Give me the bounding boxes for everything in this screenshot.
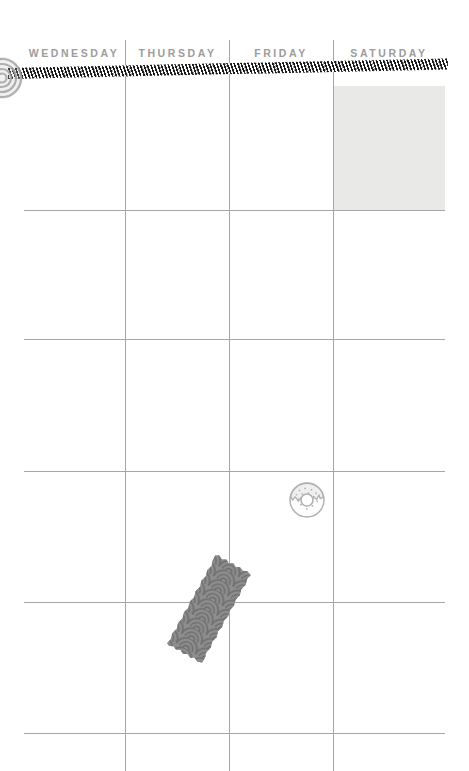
day-header-row: WEDNESDAY THURSDAY FRIDAY SATURDAY — [0, 0, 469, 66]
donut-sticker-icon — [286, 479, 328, 521]
day-header-thursday: THURSDAY — [126, 45, 229, 61]
day-header-wednesday: WEDNESDAY — [22, 45, 126, 61]
weekly-planner-page: WEDNESDAY THURSDAY FRIDAY SATURDAY — [0, 0, 469, 771]
stamp-sticker-icon — [0, 56, 24, 100]
grid-line-vertical-1 — [125, 40, 126, 771]
grid-line-horizontal-5 — [24, 733, 445, 734]
highlighted-cell-saturday[interactable] — [334, 86, 445, 210]
grid-line-vertical-2 — [229, 40, 230, 771]
day-header-friday: FRIDAY — [229, 45, 333, 61]
grid-line-horizontal-1 — [24, 210, 445, 211]
grid-line-horizontal-3 — [24, 471, 445, 472]
washi-tape-wave-decoration — [163, 551, 255, 666]
grid-line-vertical-3 — [333, 40, 334, 771]
grid-line-horizontal-2 — [24, 339, 445, 340]
